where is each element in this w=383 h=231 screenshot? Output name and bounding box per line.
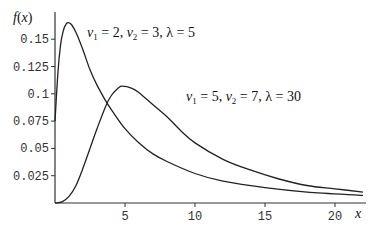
x-ticks: 5101520 bbox=[121, 203, 342, 224]
y-tick-label: 0.15 bbox=[20, 33, 49, 47]
x-tick-label: 10 bbox=[188, 210, 202, 224]
x-tick-label: 5 bbox=[121, 210, 128, 224]
y-tick-label: 0.05 bbox=[20, 142, 49, 156]
density-curve-1 bbox=[55, 23, 363, 196]
curve2-annotation: ν1 = 5, ν2 = 7, λ = 30 bbox=[186, 89, 301, 106]
y-ticks: 0.0250.050.0750.10.1250.15 bbox=[13, 33, 55, 184]
y-tick-label: 0.025 bbox=[13, 170, 49, 184]
curve1-annotation: ν1 = 2, ν2 = 3, λ = 5 bbox=[87, 25, 195, 42]
y-tick-label: 0.1 bbox=[27, 88, 49, 102]
curves bbox=[55, 23, 363, 203]
y-tick-label: 0.125 bbox=[13, 61, 49, 75]
noncentral-f-density-chart: 0.0250.050.0750.10.1250.15 5101520 f(x) … bbox=[0, 0, 383, 231]
x-axis-label: x bbox=[354, 206, 362, 221]
x-tick-label: 20 bbox=[328, 210, 342, 224]
y-tick-label: 0.075 bbox=[13, 115, 49, 129]
y-axis-label: f(x) bbox=[13, 10, 33, 26]
x-tick-label: 15 bbox=[258, 210, 272, 224]
